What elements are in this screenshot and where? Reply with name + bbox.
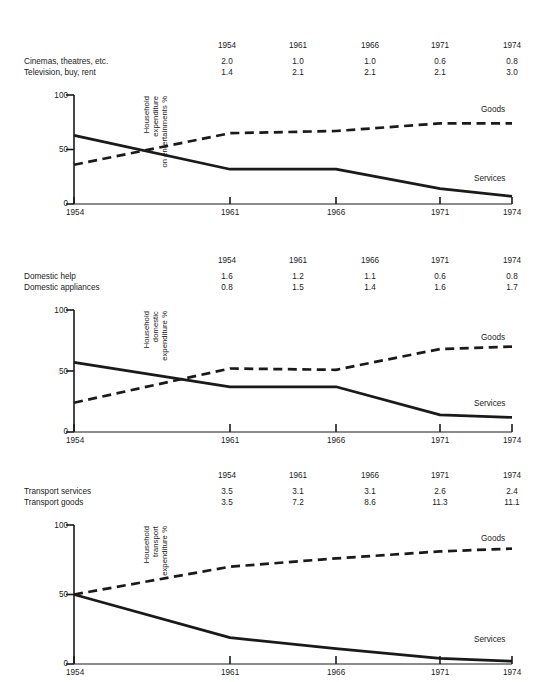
- year-header: 1961: [275, 40, 321, 51]
- table-row: Domestic help 1.6 1.2 1.1 0.6 0.8: [0, 271, 548, 282]
- year-header: 1954: [204, 255, 250, 266]
- row-label: Cinemas, theatres, etc.: [24, 56, 108, 67]
- table-cell: 2.1: [347, 67, 393, 78]
- x-tick-label: 1954: [66, 668, 84, 677]
- table-cell: 0.8: [489, 271, 535, 282]
- x-tick-label: 1954: [66, 436, 84, 445]
- table-cell: 1.0: [275, 56, 321, 67]
- table-cell: 1.0: [347, 56, 393, 67]
- table-cell: 3.1: [347, 486, 393, 497]
- series-services-line: [74, 135, 512, 196]
- year-header: 1974: [489, 40, 535, 51]
- series-services-line: [74, 595, 512, 662]
- table-cell: 2.1: [417, 67, 463, 78]
- year-header: 1971: [417, 470, 463, 481]
- table-cell: 1.4: [204, 67, 250, 78]
- table-cell: 8.6: [347, 497, 393, 508]
- table-header-row: 1954 1961 1966 1971 1974: [0, 40, 548, 51]
- year-header: 1966: [347, 255, 393, 266]
- year-header: 1971: [417, 255, 463, 266]
- table-row: Television, buy, rent 1.4 2.1 2.1 2.1 3.…: [0, 67, 548, 78]
- year-header: 1966: [347, 470, 393, 481]
- table-cell: 2.4: [489, 486, 535, 497]
- table-row: Transport services 3.5 3.1 3.1 2.6 2.4: [0, 486, 548, 497]
- table-cell: 7.2: [275, 497, 321, 508]
- series-label-goods: Goods: [481, 105, 505, 114]
- row-label: Domestic help: [24, 271, 76, 282]
- table-cell: 3.5: [204, 497, 250, 508]
- chart-plot-area-entertainments: [0, 88, 548, 213]
- data-table-entertainments: 1954 1961 1966 1971 1974 Cinemas, theatr…: [0, 40, 548, 78]
- table-cell: 3.1: [275, 486, 321, 497]
- x-tick-label: 1974: [503, 668, 521, 677]
- year-header: 1974: [489, 255, 535, 266]
- table-cell: 11.3: [417, 497, 463, 508]
- x-tick-label: 1961: [221, 668, 239, 677]
- series-label-services: Services: [474, 174, 505, 183]
- series-goods-line: [74, 347, 512, 403]
- data-table-transport: 1954 1961 1966 1971 1974 Transport servi…: [0, 470, 548, 508]
- table-row: Domestic appliances 0.8 1.5 1.4 1.6 1.7: [0, 282, 548, 293]
- table-cell: 1.6: [204, 271, 250, 282]
- table-cell: 1.7: [489, 282, 535, 293]
- x-tick-label: 1961: [221, 436, 239, 445]
- table-cell: 2.6: [417, 486, 463, 497]
- table-cell: 2.1: [275, 67, 321, 78]
- x-tick-label: 1974: [503, 208, 521, 217]
- table-row: Transport goods 3.5 7.2 8.6 11.3 11.1: [0, 497, 548, 508]
- table-cell: 3.5: [204, 486, 250, 497]
- table-cell: 1.1: [347, 271, 393, 282]
- table-cell: 11.1: [489, 497, 535, 508]
- series-goods-line: [74, 549, 512, 595]
- table-cell: 3.0: [489, 67, 535, 78]
- row-label: Transport services: [24, 486, 91, 497]
- table-header-row: 1954 1961 1966 1971 1974: [0, 470, 548, 481]
- chart-plot-area-transport: [0, 518, 548, 673]
- table-cell: 0.8: [489, 56, 535, 67]
- chart-plot-area-domestic: [0, 303, 548, 441]
- year-header: 1974: [489, 470, 535, 481]
- row-label: Transport goods: [24, 497, 83, 508]
- table-cell: 1.6: [417, 282, 463, 293]
- x-tick-label: 1971: [431, 668, 449, 677]
- year-header: 1961: [275, 255, 321, 266]
- row-label: Television, buy, rent: [24, 67, 96, 78]
- x-tick-label: 1974: [503, 436, 521, 445]
- table-cell: 1.2: [275, 271, 321, 282]
- x-tick-label: 1971: [431, 436, 449, 445]
- table-row: Cinemas, theatres, etc. 2.0 1.0 1.0 0.6 …: [0, 56, 548, 67]
- table-cell: 2.0: [204, 56, 250, 67]
- x-tick-label: 1966: [327, 208, 345, 217]
- table-cell: 1.4: [347, 282, 393, 293]
- series-label-services: Services: [474, 635, 505, 644]
- table-cell: 0.8: [204, 282, 250, 293]
- x-tick-label: 1966: [327, 436, 345, 445]
- year-header: 1954: [204, 40, 250, 51]
- series-label-goods: Goods: [481, 534, 505, 543]
- table-cell: 0.6: [417, 271, 463, 282]
- table-cell: 1.5: [275, 282, 321, 293]
- x-tick-label: 1966: [327, 668, 345, 677]
- x-tick-label: 1971: [431, 208, 449, 217]
- data-table-domestic: 1954 1961 1966 1971 1974 Domestic help 1…: [0, 255, 548, 293]
- series-goods-line: [74, 123, 512, 164]
- x-tick-label: 1954: [66, 208, 84, 217]
- table-header-row: 1954 1961 1966 1971 1974: [0, 255, 548, 266]
- row-label: Domestic appliances: [24, 282, 100, 293]
- year-header: 1971: [417, 40, 463, 51]
- series-label-goods: Goods: [481, 333, 505, 342]
- year-header: 1961: [275, 470, 321, 481]
- year-header: 1966: [347, 40, 393, 51]
- series-services-line: [74, 362, 512, 417]
- table-cell: 0.6: [417, 56, 463, 67]
- series-label-services: Services: [474, 399, 505, 408]
- x-tick-label: 1961: [221, 208, 239, 217]
- year-header: 1954: [204, 470, 250, 481]
